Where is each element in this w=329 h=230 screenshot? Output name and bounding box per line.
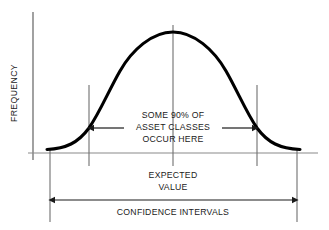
expected-value-label-line-2: VALUE (158, 182, 187, 192)
confidence-intervals-label: CONFIDENCE INTERVALS (117, 207, 229, 217)
bell-curve-figure: FREQUENCY SOME 90% OF ASSET CLASSES OCCU… (0, 0, 329, 230)
inner-annotation-line-3: OCCUR HERE (143, 134, 204, 144)
expected-value-label-line-1: EXPECTED (149, 170, 198, 180)
inner-annotation-line-2: ASSET CLASSES (136, 122, 210, 132)
inner-annotation-line-1: SOME 90% OF (142, 110, 205, 120)
y-axis-label: FREQUENCY (9, 53, 19, 133)
